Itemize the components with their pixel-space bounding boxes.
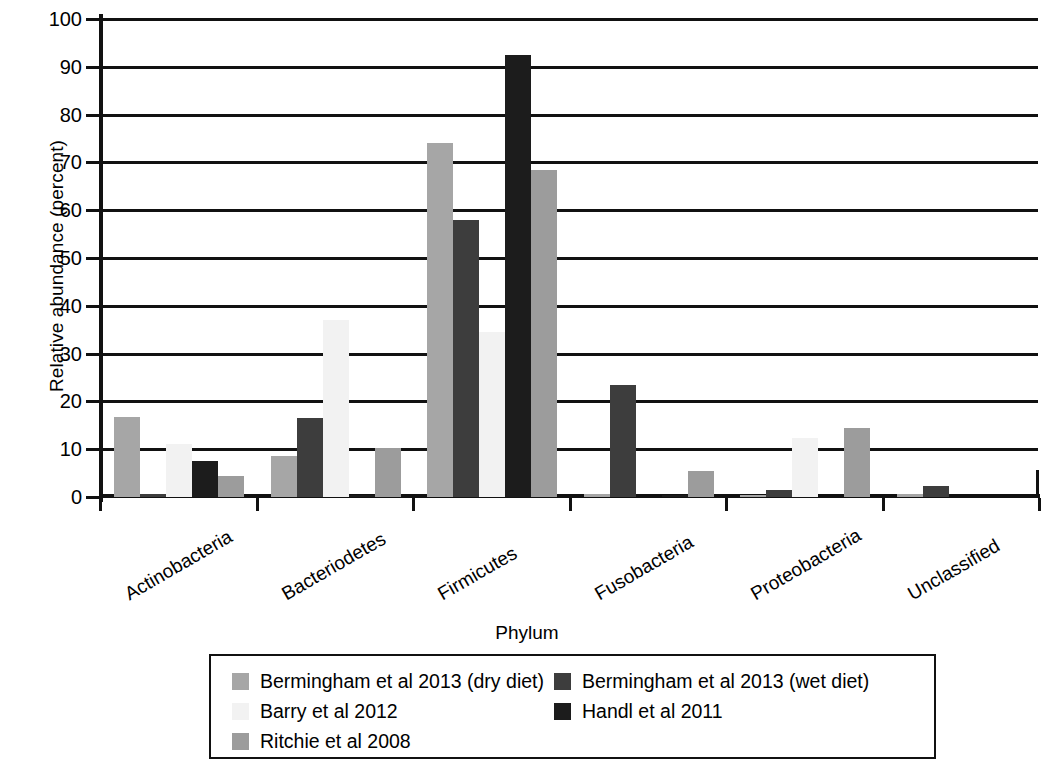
bar bbox=[923, 486, 949, 497]
y-tick-mark bbox=[86, 114, 100, 117]
bar-chart-figure: Relative abundance (percent) 01020304050… bbox=[0, 0, 1054, 779]
bar bbox=[297, 418, 323, 497]
y-tick-mark bbox=[86, 400, 100, 403]
y-tick-label: 60 bbox=[26, 199, 82, 222]
legend-entry: Handl et al 2011 bbox=[554, 700, 723, 723]
y-tick-label: 70 bbox=[26, 151, 82, 174]
gridline bbox=[99, 66, 1038, 69]
legend-label: Bermingham et al 2013 (dry diet) bbox=[260, 670, 544, 693]
y-tick-label: 100 bbox=[26, 8, 82, 31]
bar bbox=[662, 495, 688, 497]
gridline bbox=[99, 114, 1038, 117]
legend-label: Ritchie et al 2008 bbox=[260, 730, 411, 753]
x-tick-mark bbox=[725, 498, 728, 511]
gridline bbox=[99, 18, 1038, 21]
bar bbox=[688, 471, 714, 497]
bar bbox=[610, 385, 636, 497]
x-category-label: Proteobacteria bbox=[747, 524, 865, 605]
x-category-label: Fusobacteria bbox=[591, 531, 697, 605]
y-tick-mark bbox=[86, 257, 100, 260]
y-tick-mark bbox=[86, 305, 100, 308]
bar bbox=[766, 490, 792, 497]
legend-label: Bermingham et al 2013 (wet diet) bbox=[582, 670, 869, 693]
y-tick-mark bbox=[86, 66, 100, 69]
bar bbox=[349, 495, 375, 497]
legend-swatch-icon bbox=[554, 703, 571, 720]
gridline bbox=[99, 305, 1038, 308]
y-tick-label: 30 bbox=[26, 343, 82, 366]
y-tick-label: 0 bbox=[26, 486, 82, 509]
y-tick-mark bbox=[86, 448, 100, 451]
legend-swatch-icon bbox=[232, 733, 249, 750]
bar bbox=[844, 428, 870, 497]
gridline bbox=[99, 209, 1038, 212]
y-tick-mark bbox=[86, 209, 100, 212]
y-tick-label: 40 bbox=[26, 295, 82, 318]
x-tick-mark bbox=[99, 498, 102, 511]
x-category-label: Actinobacteria bbox=[121, 526, 236, 605]
legend-label: Handl et al 2011 bbox=[582, 700, 723, 723]
bar bbox=[505, 55, 531, 497]
y-tick-label: 80 bbox=[26, 104, 82, 127]
x-tick-mark bbox=[569, 498, 572, 511]
y-tick-mark bbox=[86, 496, 100, 499]
bar bbox=[479, 332, 505, 497]
bar bbox=[375, 448, 401, 497]
bar bbox=[897, 494, 923, 497]
legend-entry: Bermingham et al 2013 (wet diet) bbox=[554, 670, 869, 693]
gridline bbox=[99, 353, 1038, 356]
y-tick-label: 20 bbox=[26, 390, 82, 413]
legend: Bermingham et al 2013 (dry diet)Bermingh… bbox=[209, 654, 936, 759]
x-tick-mark bbox=[412, 498, 415, 511]
gridline bbox=[99, 257, 1038, 260]
bar bbox=[114, 417, 140, 497]
x-category-label: Firmicutes bbox=[434, 542, 521, 605]
bar bbox=[453, 220, 479, 497]
bar bbox=[323, 320, 349, 497]
legend-entry: Barry et al 2012 bbox=[232, 700, 398, 723]
bar bbox=[531, 170, 557, 497]
bar bbox=[271, 456, 297, 497]
x-tick-mark bbox=[256, 498, 259, 511]
legend-swatch-icon bbox=[232, 673, 249, 690]
bar bbox=[792, 438, 818, 497]
x-tick-mark bbox=[882, 498, 885, 511]
legend-entry: Bermingham et al 2013 (dry diet) bbox=[232, 670, 544, 693]
gridline bbox=[99, 448, 1038, 451]
y-tick-mark bbox=[86, 353, 100, 356]
y-tick-label: 90 bbox=[26, 56, 82, 79]
bar bbox=[166, 444, 192, 497]
legend-entry: Ritchie et al 2008 bbox=[232, 730, 411, 753]
bar bbox=[584, 494, 610, 497]
x-tick-mark bbox=[1038, 498, 1041, 511]
bar bbox=[192, 461, 218, 497]
plot-area bbox=[99, 19, 1038, 497]
x-axis-title: Phylum bbox=[0, 622, 1054, 644]
bar bbox=[427, 143, 453, 497]
y-tick-label: 50 bbox=[26, 247, 82, 270]
legend-swatch-icon bbox=[232, 703, 249, 720]
y-tick-mark bbox=[86, 18, 100, 21]
gridline bbox=[99, 161, 1038, 164]
x-category-label: Bacteriodetes bbox=[278, 528, 390, 605]
y-tick-mark bbox=[86, 161, 100, 164]
x-category-label: Unclassified bbox=[904, 535, 1004, 605]
y-tick-label: 10 bbox=[26, 438, 82, 461]
bar bbox=[140, 494, 166, 497]
bar bbox=[740, 495, 766, 497]
legend-label: Barry et al 2012 bbox=[260, 700, 398, 723]
legend-swatch-icon bbox=[554, 673, 571, 690]
gridline bbox=[99, 400, 1038, 403]
bar bbox=[218, 476, 244, 497]
